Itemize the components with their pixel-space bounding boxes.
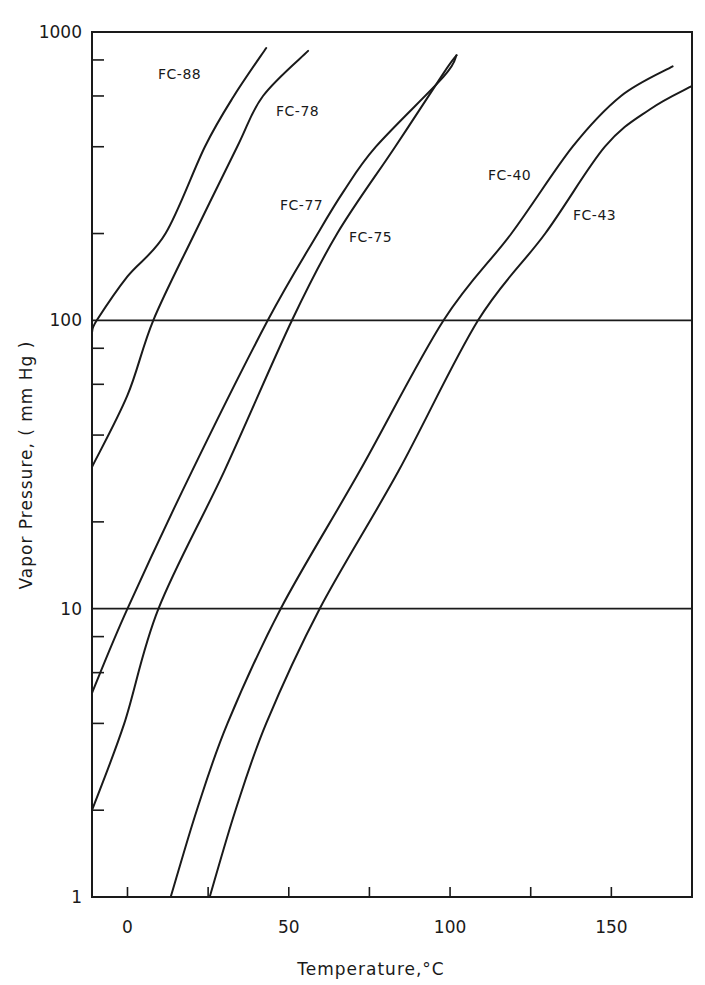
vapor-pressure-chart: 1101001000050100150 FC-88 FC-78 FC-77 FC… (0, 0, 705, 985)
y-tick-label-1000: 1000 (39, 22, 82, 42)
x-axis-title: Temperature,°C (296, 959, 444, 979)
series-label-fc-77: FC-77 (280, 197, 323, 213)
x-tick-label-150: 150 (595, 917, 627, 937)
series-line-fc-88 (92, 48, 266, 332)
series-label-fc-88: FC-88 (158, 66, 201, 82)
y-axis-title: Vapor Pressure, ( mm Hg ) (16, 341, 36, 590)
y-tick-label-1: 1 (71, 887, 82, 907)
axis-ticks: 1101001000050100150 (39, 22, 628, 937)
series-curves (92, 48, 692, 897)
x-tick-label-0: 0 (122, 917, 133, 937)
series-label-fc-40: FC-40 (488, 167, 531, 183)
plot-frame (92, 32, 692, 897)
gridlines (92, 320, 692, 608)
series-label-fc-78: FC-78 (276, 103, 319, 119)
series-labels: FC-88 FC-78 FC-77 FC-75 FC-40 FC-43 (158, 66, 616, 245)
series-line-fc-40 (171, 66, 673, 897)
series-label-fc-43: FC-43 (573, 207, 616, 223)
series-line-fc-75 (92, 55, 457, 810)
y-tick-label-100: 100 (50, 310, 82, 330)
y-tick-label-10: 10 (60, 599, 82, 619)
series-label-fc-75: FC-75 (349, 229, 392, 245)
series-line-fc-77 (92, 55, 457, 693)
x-tick-label-50: 50 (278, 917, 300, 937)
x-tick-label-100: 100 (434, 917, 466, 937)
